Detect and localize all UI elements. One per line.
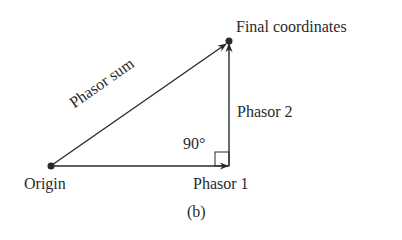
right-angle-marker bbox=[215, 152, 229, 166]
phasor-1-label: Phasor 1 bbox=[193, 176, 249, 192]
final-coordinates-label: Final coordinates bbox=[236, 19, 347, 35]
figure-caption: (b) bbox=[187, 204, 206, 220]
origin-dot bbox=[48, 163, 55, 170]
angle-label: 90° bbox=[183, 136, 205, 152]
final-coordinates-dot bbox=[226, 38, 233, 45]
phasor-2-label: Phasor 2 bbox=[237, 104, 293, 120]
origin-label: Origin bbox=[24, 176, 66, 192]
